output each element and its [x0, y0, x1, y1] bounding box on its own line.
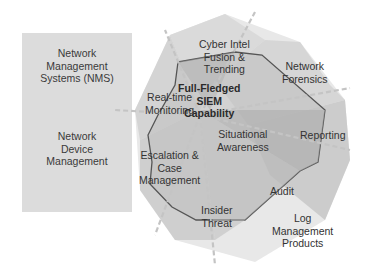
real-time-line-1: Real-time [145, 91, 194, 104]
network-forensics-line-1: Network [282, 60, 328, 73]
cyber-intel-line-3: Trending [199, 63, 250, 76]
escalation-line-1: Escalation & [139, 149, 200, 162]
cyber-intel-line-2: Fusion & [199, 51, 250, 64]
axis-label-escalation: Escalation & Case Management [139, 149, 200, 187]
situational-line-1: Situational [217, 128, 269, 141]
escalation-line-2: Case [139, 162, 200, 175]
axis-label-network-forensics: Network Forensics [282, 60, 328, 85]
axis-label-cyber-intel: Cyber Intel Fusion & Trending [199, 38, 250, 76]
log-management-line-1: Log [272, 212, 333, 225]
real-time-line-2: Monitoring [145, 104, 194, 117]
log-management-line-3: Products [272, 237, 333, 250]
audit-line-1: Audit [270, 185, 294, 198]
network-forensics-line-2: Forensics [282, 73, 328, 86]
cyber-intel-line-1: Cyber Intel [199, 38, 250, 51]
axis-label-reporting: Reporting [300, 129, 346, 142]
insider-threat-line-2: Threat [201, 217, 233, 230]
outer-label-log-management: Log Management Products [272, 212, 333, 250]
escalation-line-3: Management [139, 174, 200, 187]
axis-label-insider-threat: Insider Threat [201, 204, 233, 229]
axis-label-audit: Audit [270, 185, 294, 198]
insider-threat-line-1: Insider [201, 204, 233, 217]
reporting-line-1: Reporting [300, 129, 346, 142]
axis-label-situational-awareness: Situational Awareness [217, 128, 269, 153]
log-management-line-2: Management [272, 225, 333, 238]
axis-label-real-time-monitoring: Real-time Monitoring [145, 91, 194, 116]
situational-line-2: Awareness [217, 141, 269, 154]
